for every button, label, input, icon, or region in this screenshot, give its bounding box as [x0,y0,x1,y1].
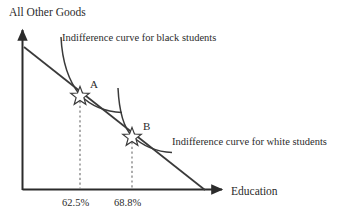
x-axis-label: Education [231,186,278,198]
black-students-curve-caption: Indifference curve for black students [62,33,216,44]
y-axis-label: All Other Goods [9,7,86,19]
figure-canvas: All Other Goods Education Indifference c… [0,0,348,224]
point-a-label: A [90,79,98,90]
x-tick-label-2: 68.8% [114,198,141,209]
point-b-label: B [143,121,150,132]
x-tick-label-1: 62.5% [62,198,89,209]
budget-constraint-line [24,47,205,190]
white-students-curve-caption: Indifference curve for white students [172,137,327,148]
